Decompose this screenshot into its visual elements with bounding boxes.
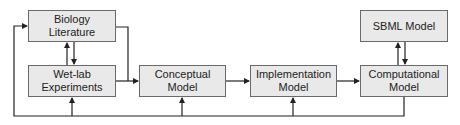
node-conceptual-model: ConceptualModel bbox=[139, 65, 226, 97]
node-sbml-model: SBML Model bbox=[360, 10, 448, 42]
node-label: Wet-lab bbox=[41, 68, 102, 81]
node-label: Model bbox=[256, 81, 331, 94]
node-label: Computational bbox=[369, 68, 440, 81]
node-computational-model: ComputationalModel bbox=[360, 65, 448, 97]
node-label: Model bbox=[369, 81, 440, 94]
node-label: Biology bbox=[49, 13, 95, 26]
node-label: Implementation bbox=[256, 68, 331, 81]
node-implementation-model: ImplementationModel bbox=[250, 65, 337, 97]
node-biology-literature: BiologyLiterature bbox=[28, 10, 116, 42]
node-label: SBML Model bbox=[373, 20, 436, 33]
node-label: Literature bbox=[49, 26, 95, 39]
node-wet-lab-experiments: Wet-labExperiments bbox=[28, 65, 116, 97]
node-label: Conceptual bbox=[155, 68, 211, 81]
node-label: Experiments bbox=[41, 81, 102, 94]
node-label: Model bbox=[155, 81, 211, 94]
